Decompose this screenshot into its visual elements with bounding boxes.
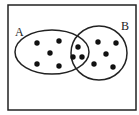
element-dot	[103, 51, 108, 56]
element-dot	[79, 54, 84, 59]
element-dot	[70, 54, 75, 59]
venn-diagram: A B	[0, 0, 139, 115]
element-dot	[34, 61, 39, 66]
set-a-only-elements	[34, 38, 61, 68]
element-dot	[47, 50, 52, 55]
element-dot	[110, 64, 115, 69]
element-dot	[34, 40, 39, 45]
set-b-label: B	[121, 19, 129, 33]
element-dot	[56, 63, 61, 68]
set-b-circle	[71, 26, 127, 80]
element-dot	[56, 38, 61, 43]
element-dot	[91, 61, 96, 66]
element-dot	[95, 39, 100, 44]
element-dot	[113, 40, 118, 45]
element-dot	[75, 44, 80, 49]
set-a-label: A	[15, 25, 24, 39]
set-b-only-elements	[91, 39, 118, 69]
